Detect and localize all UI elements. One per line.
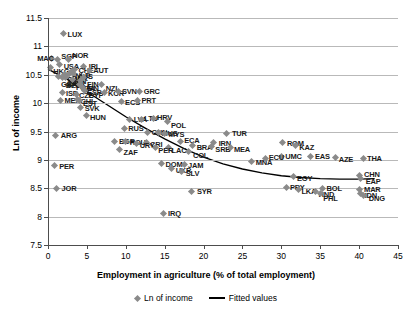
data-point-label: ZAF [124,147,138,156]
x-tick-label: 20 [199,251,208,261]
line-marker-icon [209,297,225,299]
data-point-label: LAC [172,145,187,154]
y-tick-label: 9 [37,155,42,165]
y-tick-label: 11.5 [26,13,42,23]
y-tick-label: 10 [33,98,42,108]
data-point-label: PER [59,161,74,170]
x-tick-label: 30 [277,251,286,261]
x-tick-label: 25 [238,251,247,261]
data-point-label: MYS [169,130,185,139]
data-point-label: NOR [72,51,88,60]
plot-area: 7.588.599.51010.51111.505101520253035404… [48,18,398,245]
x-tick-label: 0 [46,251,51,261]
x-tick-label: 10 [121,251,130,261]
y-axis-title: Ln of income [11,63,21,183]
chart-legend: Ln of income Fitted values [0,293,412,303]
scatter-chart: Ln of income 7.588.599.51010.51111.50510… [0,0,412,317]
data-point-label: PER [158,146,173,155]
data-point-label: JOR [62,184,77,193]
data-point-label: MAC [37,53,53,62]
data-point-label: RUS [128,124,143,133]
y-tick-label: 11 [33,41,42,51]
data-point-label: EGY [297,173,312,182]
data-point-label: GRC [144,86,160,95]
data-point-label: THA [367,154,382,163]
data-point-label: AZE [339,154,353,163]
gridline [48,103,398,104]
data-point-label: ECU [269,152,284,161]
data-point-label: IRQ [168,209,181,218]
data-point-label: PHL [323,193,337,202]
x-tick-label: 5 [85,251,90,261]
legend-label-fitted-values: Fitted values [229,293,277,303]
x-tick-label: 40 [354,251,363,261]
legend-item-fitted-values: Fitted values [209,293,277,303]
gridline [48,217,398,218]
data-point-label: LUX [68,29,82,38]
data-point-label: EAS [315,152,330,161]
gridline [48,188,398,189]
data-point-label: TUR [232,129,247,138]
y-tick-label: 8.5 [30,183,42,193]
y-tick-label: 9.5 [30,127,42,137]
y-tick-label: 8 [37,212,42,222]
legend-label-ln-of-income: Ln of income [144,293,193,303]
y-tick-label: 10.5 [25,70,42,80]
data-point-label: HUN [90,112,106,121]
data-point-label: UMC [285,152,301,161]
data-point-label: SYR [197,187,212,196]
diamond-marker-icon [134,294,141,301]
data-point-label: EAP [366,176,381,185]
data-point-label: KAZ [299,143,314,152]
legend-item-ln-of-income: Ln of income [135,293,193,303]
gridline [48,46,398,47]
x-tick-label: 45 [393,251,402,261]
x-tick-label: 35 [315,251,324,261]
data-point-label: SLV [186,169,199,178]
data-point-label: PRT [141,95,155,104]
data-point-label: ARG [61,131,77,140]
x-axis-line [48,245,399,246]
x-tick-label: 15 [160,251,169,261]
gridline [48,75,398,76]
data-point-label: COL [193,150,208,159]
data-point-label: DNG [369,194,385,203]
gridline [48,18,398,19]
data-point-label: SVN [122,86,137,95]
data-point-label: AUT [93,65,108,74]
x-axis-title: Employment in agriculture (% of total em… [0,270,412,280]
data-point-label: MEA [234,145,250,154]
y-tick-label: 7.5 [30,240,42,250]
y-axis-line [48,18,49,246]
